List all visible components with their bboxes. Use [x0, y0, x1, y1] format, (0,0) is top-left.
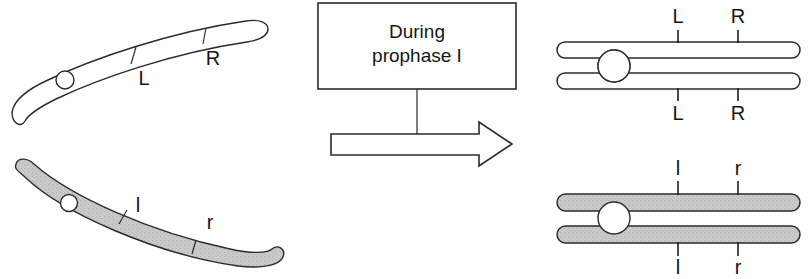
callout-box: During prophase I: [318, 3, 516, 89]
marker-label-bottom-l-right: l: [676, 256, 680, 278]
centromere-maternal-unreplicated: [56, 71, 74, 89]
marker-label-bottom-R-right: R: [731, 102, 745, 124]
sister-chromatid-bottom-paternal: [557, 226, 800, 243]
callout-text-line1: During: [389, 21, 445, 42]
centromere-outline-maternal: [598, 50, 630, 82]
chromosome-maternal-unreplicated: L R: [12, 20, 268, 124]
process-arrow: [331, 122, 512, 166]
chromosome-maternal-replicated: L R L R: [557, 5, 800, 124]
process-arrow-shape: [331, 122, 512, 166]
marker-label-bottom-r-right: r: [735, 256, 742, 278]
marker-label-top-r-right: r: [735, 157, 742, 179]
marker-label-L-left: L: [138, 67, 149, 89]
marker-label-l-left: l: [136, 194, 140, 216]
marker-label-bottom-L-right: L: [672, 102, 683, 124]
chromosome-prophase-figure: L R l r During prophase I: [0, 0, 809, 279]
figure-canvas: L R l r During prophase I: [0, 0, 809, 279]
sister-chromatid-top-paternal: [557, 194, 800, 211]
sister-chromatid-bottom-maternal: [557, 73, 800, 89]
marker-label-R-left: R: [206, 47, 220, 69]
chromatid-body-paternal: [16, 159, 284, 267]
centromere-paternal-unreplicated: [61, 195, 78, 212]
callout-text-line2: prophase I: [372, 45, 462, 66]
sister-chromatid-top-maternal: [557, 42, 800, 58]
chromosome-paternal-unreplicated: l r: [16, 159, 284, 267]
marker-label-top-R-right: R: [731, 5, 745, 27]
chromosome-paternal-replicated: l r l r: [557, 157, 800, 278]
marker-label-r-left: r: [207, 211, 214, 233]
marker-label-top-l-right: l: [676, 157, 680, 179]
marker-label-top-L-right: L: [672, 5, 683, 27]
centromere-paternal-replicated: [598, 202, 630, 234]
